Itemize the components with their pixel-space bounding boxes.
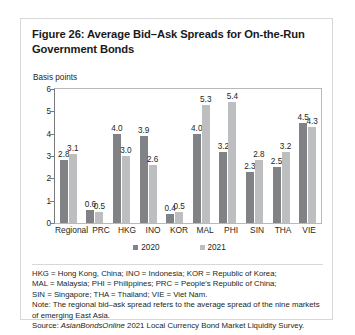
x-axis-tick-label: PRC: [88, 225, 114, 235]
bar[interactable]: 3.2: [282, 152, 290, 223]
bar-group: 0.60.5: [82, 89, 109, 223]
y-axis-tick-mark: [50, 223, 54, 224]
y-axis-tick-mark: [50, 201, 54, 202]
abbrev-line-2: MAL = Malaysia; PHI = Philippines; PRC =…: [32, 279, 326, 289]
bar[interactable]: 3.0: [122, 156, 130, 223]
x-axis-tick-label: SIN: [244, 225, 270, 235]
bar[interactable]: 2.8: [255, 160, 263, 223]
bar-value-label: 3.9: [138, 126, 149, 136]
bar-value-label: 2.5: [271, 157, 282, 167]
bar-group: 4.54.3: [294, 89, 321, 223]
legend-item[interactable]: 2020: [133, 243, 159, 252]
note-text: The regional bid–ask spread refers to th…: [32, 300, 320, 319]
x-axis-tick-label: THA: [270, 225, 296, 235]
chart-plot-area: 0123456 2.83.10.60.54.03.03.92.60.40.54.…: [37, 88, 322, 224]
bar[interactable]: 0.4: [166, 214, 174, 223]
y-axis-tick-label: 6: [21, 85, 51, 94]
legend-label: 2020: [141, 243, 159, 252]
source-paragraph: Source: AsianBondsOnline 2021 Local Curr…: [32, 321, 326, 331]
legend-swatch-icon: [133, 245, 138, 250]
bar-value-label: 3.1: [67, 144, 78, 154]
bar-value-label: 4.0: [191, 124, 202, 134]
y-axis-tick-mark: [50, 111, 54, 112]
y-axis-tick-label: 1: [21, 196, 51, 205]
bar[interactable]: 2.6: [149, 165, 157, 223]
bar[interactable]: 3.9: [140, 136, 148, 223]
notes-divider: [32, 264, 323, 265]
bar-group: 2.83.1: [55, 89, 82, 223]
x-axis-tick-label: HKG: [114, 225, 140, 235]
legend-swatch-icon: [200, 245, 205, 250]
bar[interactable]: 3.1: [69, 154, 77, 223]
bar[interactable]: 2.8: [60, 160, 68, 223]
bar-group: 2.53.2: [268, 89, 295, 223]
x-axis-tick-label: MAL: [192, 225, 218, 235]
bar[interactable]: 5.3: [202, 105, 210, 223]
bar-value-label: 0.5: [173, 202, 184, 212]
bar-value-label: 2.8: [253, 150, 264, 160]
x-axis-tick-label: Regional: [55, 225, 88, 235]
bars-layer: 2.83.10.60.54.03.03.92.60.40.54.05.33.25…: [55, 89, 321, 223]
legend-label: 2021: [208, 243, 226, 252]
bar-value-label: 4.0: [111, 124, 122, 134]
bar[interactable]: 3.2: [219, 152, 227, 223]
y-axis-tick-label: 5: [21, 107, 51, 116]
bar-value-label: 0.5: [94, 202, 105, 212]
y-axis-tick-mark: [50, 134, 54, 135]
bar-group: 3.25.4: [215, 89, 242, 223]
bar-value-label: 3.2: [280, 142, 291, 152]
y-axis-tick-label: 3: [21, 152, 51, 161]
bar-group: 2.32.8: [241, 89, 268, 223]
abbrev-line-1: HKG = Hong Kong, China; INO = Indonesia;…: [32, 269, 326, 279]
chart-legend: 20202021: [37, 243, 322, 252]
y-axis-tick-mark: [50, 178, 54, 179]
x-axis: RegionalPRCHKGINOKORMALPHISINTHAVIE: [55, 225, 322, 235]
bar-group: 4.05.3: [188, 89, 215, 223]
bar-group: 0.40.5: [161, 89, 188, 223]
y-axis-tick-mark: [50, 89, 54, 90]
figure-notes: HKG = Hong Kong, China; INO = Indonesia;…: [32, 269, 326, 331]
figure-card: Figure 26: Average Bid–Ask Spreads for O…: [20, 18, 333, 320]
bar-value-label: 4.3: [306, 117, 317, 127]
source-name: AsianBondsOnline: [59, 321, 125, 330]
x-axis-tick-label: VIE: [296, 225, 322, 235]
x-axis-tick-label: PHI: [218, 225, 244, 235]
abbrev-line-3: SIN = Singapore; THA = Thailand; VIE = V…: [32, 290, 326, 300]
note-paragraph: Note: The regional bid–ask spread refers…: [32, 300, 326, 321]
bar-value-label: 2.3: [244, 162, 255, 172]
bar-value-label: 5.3: [200, 95, 211, 105]
source-rest: 2021 Local Currency Bond Market Liquidit…: [125, 321, 304, 330]
bar[interactable]: 2.5: [273, 167, 281, 223]
legend-item[interactable]: 2021: [200, 243, 226, 252]
bar-value-label: 3.2: [218, 142, 229, 152]
bar[interactable]: 5.4: [228, 102, 236, 223]
y-axis-tick-label: 2: [21, 174, 51, 183]
bar-group: 3.92.6: [135, 89, 162, 223]
y-axis-tick-mark: [50, 156, 54, 157]
bar[interactable]: 0.5: [95, 212, 103, 223]
bar-group: 4.03.0: [108, 89, 135, 223]
bar[interactable]: 4.0: [193, 134, 201, 223]
note-label: Note:: [32, 300, 51, 309]
bar[interactable]: 0.5: [175, 212, 183, 223]
y-axis-tick-label: 4: [21, 129, 51, 138]
bar-value-label: 5.4: [227, 92, 238, 102]
y-axis-tick-label: 0: [21, 219, 51, 228]
bar[interactable]: 4.3: [308, 127, 316, 223]
page-title: Figure 26: Average Bid–Ask Spreads for O…: [32, 27, 324, 57]
x-axis-tick-label: INO: [140, 225, 166, 235]
x-axis-tick-label: KOR: [166, 225, 192, 235]
bar[interactable]: 4.5: [299, 123, 307, 224]
bar-value-label: 3.0: [120, 146, 131, 156]
bar-value-label: 2.6: [147, 155, 158, 165]
source-label: Source:: [32, 321, 59, 330]
bar[interactable]: 2.3: [246, 172, 254, 223]
y-axis-unit-label: Basis points: [33, 73, 77, 82]
